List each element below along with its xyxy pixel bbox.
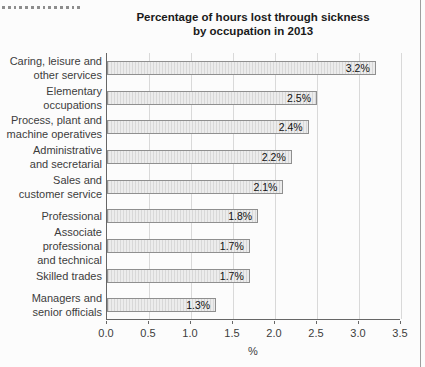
category-label: Process, plant andmachine operatives: [0, 113, 102, 141]
x-axis-tick-label: 0.0: [98, 327, 113, 339]
x-axis-tick-label: 1.0: [182, 327, 197, 339]
category-label: Professional: [0, 209, 102, 223]
category-label: Administrativeand secretarial: [0, 143, 102, 171]
x-axis-tick-label: 0.5: [140, 327, 155, 339]
x-axis-label: %: [248, 345, 258, 357]
bar: 2.4%: [107, 120, 309, 134]
category-label-line: occupations: [0, 98, 102, 112]
bar: 2.2%: [107, 150, 292, 164]
chart-title-line2: by occupation in 2013: [106, 24, 400, 38]
category-label: Associate professionaland technical: [0, 225, 102, 267]
bar-value-label: 1.7%: [220, 270, 244, 282]
category-label-line: Elementary: [0, 84, 102, 98]
plot-area: 3.2%2.5%2.4%2.2%2.1%1.8%1.7%1.7%1.3%: [106, 53, 400, 320]
category-label-line: and technical: [0, 253, 102, 267]
bar: 2.5%: [107, 91, 317, 105]
chart-title: Percentage of hours lost through sicknes…: [106, 10, 400, 38]
bar-value-label: 2.4%: [279, 121, 303, 133]
x-axis-tick-label: 2.0: [266, 327, 281, 339]
x-axis-tick-mark: [358, 321, 359, 324]
x-axis-tick-labels: 0.00.51.01.52.02.53.03.5: [106, 327, 400, 340]
x-axis-tick-mark: [232, 321, 233, 324]
figure: Percentage of hours lost through sicknes…: [0, 0, 425, 367]
category-label-line: Managers and: [0, 291, 102, 305]
x-axis-tick-mark: [148, 321, 149, 324]
chart-title-line1: Percentage of hours lost through sicknes…: [106, 10, 400, 24]
x-axis-tick-label: 2.5: [308, 327, 323, 339]
category-label-line: Sales and: [0, 173, 102, 187]
bar-value-label: 2.5%: [287, 92, 311, 104]
x-axis-tick-mark: [316, 321, 317, 324]
category-label: Managers andsenior officials: [0, 291, 102, 319]
category-label-line: customer service: [0, 187, 102, 201]
gridline: [401, 53, 402, 319]
category-label-line: machine operatives: [0, 127, 102, 141]
x-axis-tick-mark: [106, 321, 107, 324]
x-axis-ticks: [106, 321, 400, 325]
dotted-divider: [2, 6, 82, 9]
x-axis-tick-label: 3.0: [350, 327, 365, 339]
x-axis-tick-label: 3.5: [392, 327, 407, 339]
category-label: Skilled trades: [0, 269, 102, 283]
x-axis-tick-mark: [190, 321, 191, 324]
category-label-line: Process, plant and: [0, 113, 102, 127]
category-label: Caring, leisure andother services: [0, 54, 102, 82]
category-label-line: senior officials: [0, 305, 102, 319]
category-label: Elementaryoccupations: [0, 84, 102, 112]
category-label-line: Administrative: [0, 143, 102, 157]
bar-value-label: 1.8%: [228, 210, 252, 222]
x-axis-tick-mark: [400, 321, 401, 324]
category-axis-labels: Caring, leisure andother servicesElement…: [0, 53, 102, 320]
bar: 1.7%: [107, 239, 250, 253]
bars: 3.2%2.5%2.4%2.2%2.1%1.8%1.7%1.7%1.3%: [107, 53, 400, 319]
category-label-line: Associate professional: [0, 225, 102, 253]
category-label-line: Skilled trades: [0, 269, 102, 283]
category-label-line: Professional: [0, 209, 102, 223]
bar: 3.2%: [107, 61, 376, 75]
x-axis-tick-label: 1.5: [224, 327, 239, 339]
bar-value-label: 2.2%: [262, 151, 286, 163]
bar: 1.8%: [107, 209, 258, 223]
bar-value-label: 1.7%: [220, 240, 244, 252]
bar: 2.1%: [107, 180, 283, 194]
bar: 1.3%: [107, 298, 216, 312]
bar-value-label: 3.2%: [346, 62, 370, 74]
category-label-line: and secretarial: [0, 157, 102, 171]
category-label-line: Caring, leisure and: [0, 54, 102, 68]
bar-value-label: 1.3%: [186, 299, 210, 311]
category-label: Sales andcustomer service: [0, 173, 102, 201]
category-label-line: other services: [0, 68, 102, 82]
x-axis-tick-mark: [274, 321, 275, 324]
bar-value-label: 2.1%: [253, 181, 277, 193]
page-edge-line: [420, 0, 422, 367]
bar: 1.7%: [107, 269, 250, 283]
